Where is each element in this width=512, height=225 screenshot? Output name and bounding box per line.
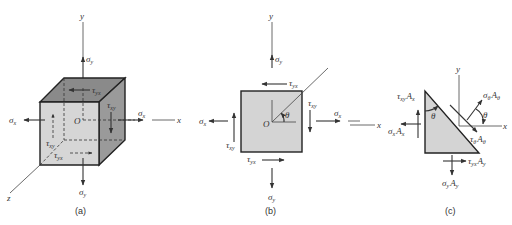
sigma-theta-label: σθAθ (483, 90, 500, 101)
sigma-theta-arrow (467, 100, 482, 120)
x-axis-left-label: x (376, 120, 381, 130)
sigma-y-top-label: σy (86, 54, 93, 65)
theta-label: θ (285, 110, 290, 120)
y-axis-label: y (79, 11, 84, 21)
tau-xy-Ax-label: τxyAx (397, 91, 415, 102)
x-axis-label: x (502, 121, 507, 131)
sigma-y-bottom-label: σy (268, 192, 275, 203)
origin-label: O (74, 116, 81, 126)
x-axis-label: x (176, 115, 181, 125)
z-axis-line (10, 165, 40, 193)
sigma-x-left-label: σx (9, 115, 16, 126)
caption-c: (c) (445, 206, 456, 216)
y-axis-label: y (268, 11, 273, 21)
sigma-y-top-label: σy (275, 54, 282, 65)
stress-element-figure: y σy O x σx σx τyx τxy τxy (0, 0, 512, 225)
tau-xy-right-label: τxy (308, 98, 317, 109)
caption-a: (a) (75, 206, 86, 216)
y-axis-label: y (455, 64, 460, 74)
z-axis-label: z (6, 193, 11, 203)
tau-theta-label: τθAθ (470, 134, 486, 145)
panel-a-cube: y σy O x σx σx τyx τxy τxy (6, 11, 181, 216)
sigma-y-Ay-label: σyAy (442, 178, 459, 189)
stress-square (241, 91, 302, 152)
tau-yx-bottom-label: τyx (247, 154, 256, 165)
panel-b-plane-element: y σy τyx θ O τxy σx τxy σx τyx σy (b) (199, 11, 360, 216)
panel-c-wedge: x θ y x τθAθ σθAθ θ τxyAx σxAx τyxAy σyA… (350, 64, 507, 216)
tau-yx-Ay-label: τyxAy (468, 156, 486, 167)
origin-label: O (263, 119, 270, 129)
sigma-x-right-label: σx (138, 108, 145, 119)
sigma-x-left-label: σx (199, 116, 206, 127)
wedge-theta-label: θ (431, 111, 436, 121)
sigma-y-bottom-label: σy (79, 187, 86, 198)
caption-b: (b) (265, 206, 276, 216)
tau-yx-top-label: τyx (289, 78, 298, 89)
normal-theta-label: θ (483, 110, 488, 120)
sigma-x-right-label: σx (334, 108, 341, 119)
sigma-x-Ax-label: σxAx (388, 126, 405, 137)
